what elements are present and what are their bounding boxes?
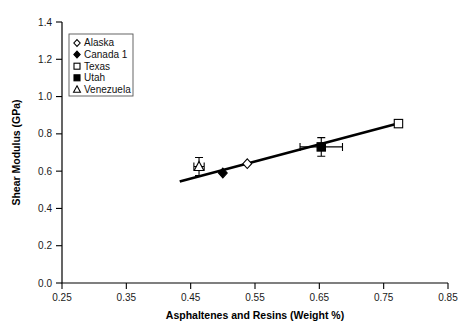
x-axis-title: Asphaltenes and Resins (Weight %) bbox=[166, 309, 344, 321]
legend-marker-utah bbox=[74, 75, 80, 81]
y-tick-label: 1.2 bbox=[38, 54, 52, 65]
x-tick-label: 0.25 bbox=[52, 292, 72, 303]
x-tick-label: 0.75 bbox=[374, 292, 394, 303]
legend-label-alaska: Alaska bbox=[84, 37, 114, 48]
x-tick-label: 0.55 bbox=[245, 292, 265, 303]
legend-label-canada-1: Canada 1 bbox=[84, 49, 128, 60]
y-tick-label: 1.4 bbox=[38, 17, 52, 28]
x-tick-label: 0.35 bbox=[117, 292, 137, 303]
data-point-utah bbox=[317, 143, 325, 151]
x-tick-label: 0.45 bbox=[181, 292, 201, 303]
x-tick-label: 0.85 bbox=[438, 292, 458, 303]
y-tick-label: 0.2 bbox=[38, 240, 52, 251]
y-tick-label: 0.8 bbox=[38, 128, 52, 139]
y-tick-label: 1.0 bbox=[38, 91, 52, 102]
y-tick-label: 0.4 bbox=[38, 203, 52, 214]
y-tick-label: 0.6 bbox=[38, 166, 52, 177]
legend-label-utah: Utah bbox=[84, 72, 105, 83]
legend-marker-texas bbox=[74, 63, 80, 69]
x-tick-label: 0.65 bbox=[310, 292, 330, 303]
data-point-alaska bbox=[243, 159, 252, 169]
y-tick-label: 0.0 bbox=[38, 278, 52, 289]
trend-line bbox=[180, 123, 400, 181]
legend-label-venezuela: Venezuela bbox=[84, 84, 131, 95]
y-axis-title: Shear Modulus (GPa) bbox=[10, 99, 22, 205]
legend-label-texas: Texas bbox=[84, 61, 110, 72]
data-point-texas bbox=[394, 119, 402, 127]
scatter-chart: 0.250.350.450.550.650.750.850.00.20.40.6… bbox=[0, 0, 470, 327]
chart-figure: 0.250.350.450.550.650.750.850.00.20.40.6… bbox=[0, 0, 470, 327]
